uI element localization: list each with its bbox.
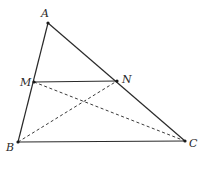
point-M — [32, 80, 35, 83]
label-M: M — [19, 76, 32, 89]
point-B — [16, 140, 19, 143]
segment-BC — [18, 141, 185, 142]
segment-MN — [34, 81, 117, 82]
label-A: A — [40, 7, 49, 20]
label-N: N — [121, 73, 132, 86]
point-N — [115, 79, 118, 82]
segment-MC-dashed — [34, 82, 185, 141]
label-B: B — [5, 141, 14, 154]
geometry-diagram: A M N B C — [0, 0, 206, 174]
point-A — [46, 21, 49, 24]
point-C — [183, 139, 186, 142]
segment-BN-dashed — [18, 81, 117, 142]
label-C: C — [189, 137, 198, 150]
